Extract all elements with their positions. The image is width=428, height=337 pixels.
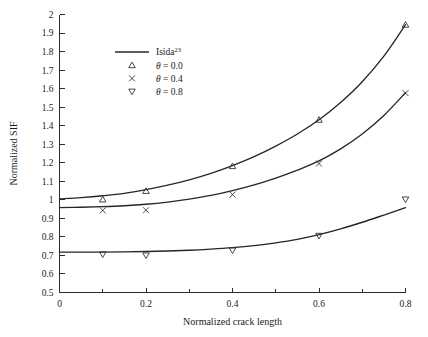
legend-label: θ = 0.4: [156, 74, 183, 84]
series-markers-triangle-up: [99, 22, 408, 202]
x-tick-label: 0.4: [227, 299, 239, 309]
data-point-marker: [230, 192, 236, 198]
reference-curve: [60, 93, 406, 208]
reference-curves-group: [60, 25, 406, 252]
y-tick-label: 0.7: [42, 251, 54, 261]
x-tick-label: 0.6: [313, 299, 325, 309]
y-tick-label: 1: [49, 195, 54, 205]
legend-item: Isida23: [115, 46, 181, 58]
data-point-marker: [143, 253, 150, 259]
legend-marker-cross: [129, 75, 135, 81]
legend-item: θ = 0.0: [129, 61, 183, 71]
y-tick-label: 0.8: [42, 232, 54, 242]
data-point-marker: [100, 207, 106, 213]
x-tick-label: 0.2: [140, 299, 152, 309]
y-tick-label: 1.5: [42, 103, 54, 113]
data-point-marker: [99, 196, 106, 202]
legend-marker-triangle-up: [129, 62, 136, 68]
x-tick-label: 0.8: [400, 299, 412, 309]
legend-item: θ = 0.8: [129, 87, 183, 97]
y-tick-label: 1.9: [42, 28, 54, 38]
axis-spines: [60, 15, 406, 293]
data-point-marker: [143, 207, 149, 213]
y-tick-label: 1.6: [42, 84, 54, 94]
y-tick-label: 1.2: [42, 158, 54, 168]
legend-marker-triangle-down: [129, 89, 136, 95]
reference-curve: [60, 208, 406, 252]
y-tick-label: 0.9: [42, 214, 54, 224]
y-tick-label: 0.6: [42, 269, 54, 279]
y-tick-label: 1.3: [42, 140, 54, 150]
axes-group: [60, 15, 406, 293]
y-tick-labels-group: 0.50.60.70.80.911.11.21.31.41.51.61.71.8…: [42, 10, 54, 298]
data-point-marker: [402, 197, 409, 203]
y-tick-label: 1.4: [42, 121, 54, 131]
x-tick-labels-group: 00.20.40.60.8: [57, 299, 412, 309]
chart-figure: 0.50.60.70.80.911.11.21.31.41.51.61.71.8…: [0, 0, 428, 337]
series-markers-triangle-down: [99, 197, 408, 259]
data-point-marker: [229, 248, 236, 254]
reference-curve: [60, 25, 406, 199]
y-axis-title: Normalized SIF: [8, 121, 19, 186]
tick-marks-group: [60, 15, 406, 293]
x-axis-title: Normalized crack length: [183, 316, 282, 327]
y-tick-label: 1.1: [42, 177, 54, 187]
legend-label: θ = 0.0: [156, 61, 183, 71]
legend-label: θ = 0.8: [156, 87, 183, 97]
y-tick-label: 1.8: [42, 47, 54, 57]
data-markers-group: [99, 22, 408, 259]
legend-group: Isida23θ = 0.0θ = 0.4θ = 0.8: [115, 46, 183, 97]
legend-item: θ = 0.4: [129, 74, 183, 84]
y-tick-label: 1.7: [42, 66, 54, 76]
y-tick-label: 0.5: [42, 288, 54, 298]
y-tick-label: 2: [49, 10, 54, 20]
chart-canvas: 0.50.60.70.80.911.11.21.31.41.51.61.71.8…: [0, 0, 428, 337]
legend-label: Isida23: [156, 46, 181, 58]
series-markers-cross: [100, 90, 409, 213]
data-point-marker: [403, 90, 409, 96]
x-tick-label: 0: [57, 299, 62, 309]
